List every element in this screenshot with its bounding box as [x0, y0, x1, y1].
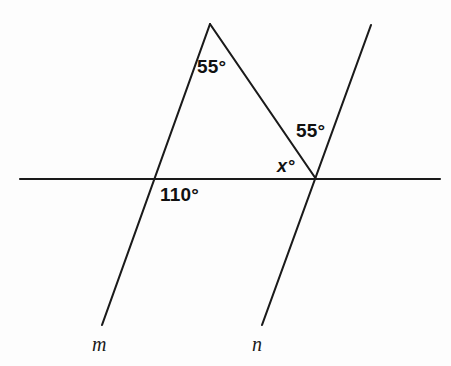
diagram-canvas [0, 0, 451, 366]
line-m [102, 24, 210, 325]
apex-to-intersection-segment [210, 24, 316, 179]
angle-label-right-55: 55° [296, 121, 325, 140]
geometry-figure: 55° 55° x° 110° m n [0, 0, 451, 366]
angle-label-x: x° [277, 157, 295, 175]
angle-label-apex-55: 55° [197, 57, 226, 76]
angle-label-110: 110° [160, 185, 199, 204]
line-m-label: m [92, 334, 106, 354]
line-n-label: n [252, 334, 262, 354]
